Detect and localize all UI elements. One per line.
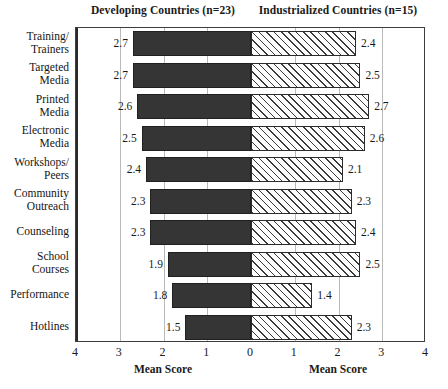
bar-developing	[172, 283, 251, 308]
bar-developing	[150, 189, 251, 214]
category-label-line: Outreach	[0, 200, 69, 213]
x-tick-label: 1	[194, 345, 218, 360]
bar-value-developing: 1.9	[76, 249, 163, 281]
bar-developing	[137, 94, 251, 119]
category-label: ElectronicMedia	[0, 124, 69, 150]
bar-developing	[168, 252, 251, 277]
plot-area: 2.72.42.72.52.62.72.52.62.42.12.32.32.32…	[75, 27, 425, 342]
bar-value-developing: 2.7	[76, 60, 128, 92]
category-label: Workshops/Peers	[0, 156, 69, 182]
bar-industrialized	[251, 31, 356, 56]
bar-value-industrialized: 2.5	[365, 60, 379, 92]
category-label: Counseling	[0, 225, 69, 238]
bar-value-developing: 2.4	[76, 154, 141, 186]
category-label-line: Media	[0, 74, 69, 87]
bar-developing	[142, 126, 251, 151]
diverging-bar-chart: Developing Countries (n=23) Industrializ…	[0, 0, 448, 389]
bar-row: 2.32.4	[76, 217, 424, 249]
bar-industrialized	[251, 283, 312, 308]
x-tick-label: 3	[107, 345, 131, 360]
category-label-line: School	[0, 250, 69, 263]
chart-header-industrialized: Industrialized Countries (n=15)	[251, 4, 425, 16]
bar-value-industrialized: 2.4	[361, 217, 375, 249]
bar-value-developing: 2.3	[76, 217, 145, 249]
bar-value-developing: 1.8	[76, 280, 167, 312]
bar-industrialized	[251, 252, 360, 277]
bar-value-industrialized: 2.7	[374, 91, 388, 123]
bar-developing	[150, 220, 251, 245]
x-tick-label: 2	[326, 345, 350, 360]
category-label-line: Media	[0, 137, 69, 150]
category-label-line: Hotlines	[0, 320, 69, 333]
x-tick-label: 3	[369, 345, 393, 360]
category-label-line: Performance	[0, 288, 69, 301]
bar-developing	[185, 315, 251, 340]
category-label-line: Trainers	[0, 43, 69, 56]
category-label: Performance	[0, 288, 69, 301]
category-label-line: Targeted	[0, 61, 69, 74]
bar-row: 2.72.5	[76, 60, 424, 92]
x-tick-label: 4	[413, 345, 437, 360]
bar-value-developing: 1.5	[76, 312, 180, 344]
bar-row: 1.52.3	[76, 312, 424, 344]
category-label-line: Workshops/	[0, 156, 69, 169]
category-label-line: Printed	[0, 93, 69, 106]
bar-row: 2.52.6	[76, 123, 424, 155]
bar-industrialized	[251, 94, 369, 119]
category-label-line: Training/	[0, 30, 69, 43]
bar-industrialized	[251, 126, 365, 151]
bar-value-developing: 2.7	[76, 28, 128, 60]
x-tick-label: 0	[238, 345, 262, 360]
bar-developing	[133, 31, 251, 56]
bar-value-developing: 2.5	[76, 123, 137, 155]
x-tick-label: 4	[63, 345, 87, 360]
category-label: Hotlines	[0, 320, 69, 333]
category-label-line: Electronic	[0, 124, 69, 137]
x-axis-title-right: Mean Score	[251, 363, 425, 375]
x-tick-label: 1	[282, 345, 306, 360]
bar-value-industrialized: 2.3	[357, 312, 371, 344]
category-label-line: Counseling	[0, 225, 69, 238]
category-label-line: Media	[0, 106, 69, 119]
bar-value-industrialized: 2.3	[357, 186, 371, 218]
bar-industrialized	[251, 189, 352, 214]
bar-row: 2.32.3	[76, 186, 424, 218]
category-label: SchoolCourses	[0, 250, 69, 276]
bar-row: 2.42.1	[76, 154, 424, 186]
bar-industrialized	[251, 315, 352, 340]
category-label: TargetedMedia	[0, 61, 69, 87]
bar-developing	[146, 157, 251, 182]
bar-row: 1.92.5	[76, 249, 424, 281]
bar-row: 1.81.4	[76, 280, 424, 312]
bar-value-industrialized: 2.5	[365, 249, 379, 281]
bar-value-developing: 2.3	[76, 186, 145, 218]
category-label: CommunityOutreach	[0, 187, 69, 213]
category-label-line: Community	[0, 187, 69, 200]
category-label-line: Peers	[0, 169, 69, 182]
category-label: Training/Trainers	[0, 30, 69, 56]
category-label-line: Courses	[0, 263, 69, 276]
bar-value-industrialized: 2.1	[348, 154, 362, 186]
bar-value-industrialized: 2.6	[370, 123, 384, 155]
bar-industrialized	[251, 63, 360, 88]
x-tick-label: 2	[151, 345, 175, 360]
bar-developing	[133, 63, 251, 88]
bar-value-developing: 2.6	[76, 91, 132, 123]
x-axis-title-left: Mean Score	[75, 363, 251, 375]
bar-industrialized	[251, 220, 356, 245]
bar-industrialized	[251, 157, 343, 182]
bar-row: 2.62.7	[76, 91, 424, 123]
bar-row: 2.72.4	[76, 28, 424, 60]
bar-value-industrialized: 2.4	[361, 28, 375, 60]
chart-header-developing: Developing Countries (n=23)	[75, 4, 251, 16]
category-label: PrintedMedia	[0, 93, 69, 119]
bar-value-industrialized: 1.4	[317, 280, 331, 312]
